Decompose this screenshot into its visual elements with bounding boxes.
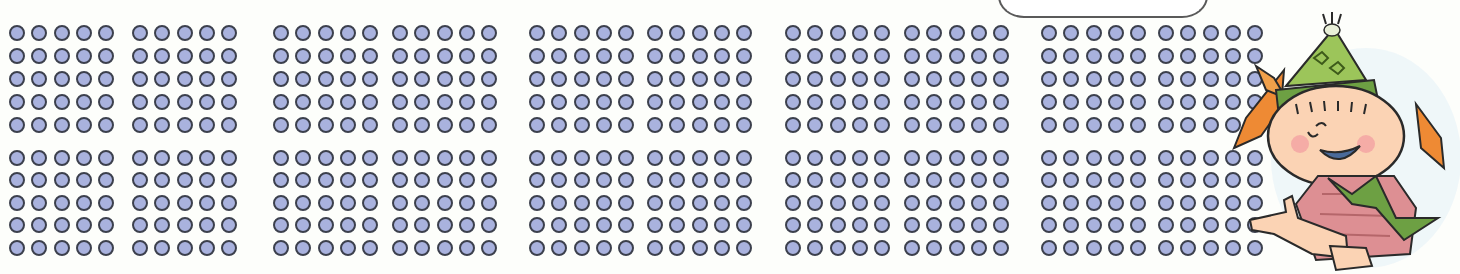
dot [647, 195, 663, 211]
dot [1130, 25, 1146, 41]
dot [340, 94, 356, 110]
dot [551, 48, 567, 64]
dot [692, 172, 708, 188]
dot [98, 94, 114, 110]
dot [904, 217, 920, 233]
dot [1158, 172, 1174, 188]
dot [154, 117, 170, 133]
dot [295, 117, 311, 133]
dot [177, 195, 193, 211]
dot [481, 48, 497, 64]
dot [714, 25, 730, 41]
dot [993, 117, 1009, 133]
dot [362, 48, 378, 64]
dot [177, 25, 193, 41]
dot [437, 217, 453, 233]
dot [340, 25, 356, 41]
dot [459, 71, 475, 87]
dot [1086, 71, 1102, 87]
dot [785, 71, 801, 87]
dot [785, 25, 801, 41]
dot [1158, 25, 1174, 41]
dot [31, 240, 47, 256]
dot [273, 48, 289, 64]
dot [273, 25, 289, 41]
dot [971, 71, 987, 87]
dot [785, 150, 801, 166]
dot [785, 195, 801, 211]
dot [459, 240, 475, 256]
dot [807, 117, 823, 133]
dot [949, 172, 965, 188]
dot [949, 240, 965, 256]
dot [31, 172, 47, 188]
dot [177, 117, 193, 133]
dot [273, 172, 289, 188]
dot [318, 172, 334, 188]
dot [830, 172, 846, 188]
dot [852, 71, 868, 87]
dot [852, 48, 868, 64]
dot [1130, 172, 1146, 188]
dot [132, 48, 148, 64]
dot [736, 94, 752, 110]
dot [1041, 71, 1057, 87]
dot [736, 48, 752, 64]
dot [1063, 71, 1079, 87]
dot [1086, 217, 1102, 233]
dot [1203, 71, 1219, 87]
dot [221, 240, 237, 256]
dot [98, 195, 114, 211]
dot [618, 94, 634, 110]
dot [596, 25, 612, 41]
dot [551, 217, 567, 233]
dot [1158, 217, 1174, 233]
dot [437, 240, 453, 256]
dot [1041, 240, 1057, 256]
dot [647, 150, 663, 166]
dot [904, 150, 920, 166]
dot [414, 117, 430, 133]
dot [785, 240, 801, 256]
dot [1086, 48, 1102, 64]
dot [177, 240, 193, 256]
dot [1063, 150, 1079, 166]
dot [318, 150, 334, 166]
dot [154, 48, 170, 64]
dot [295, 240, 311, 256]
dot [54, 195, 70, 211]
dot [459, 172, 475, 188]
dot [437, 25, 453, 41]
dot [852, 25, 868, 41]
dot [31, 150, 47, 166]
dot [1203, 48, 1219, 64]
dot [596, 172, 612, 188]
dot [31, 117, 47, 133]
dot [1158, 240, 1174, 256]
dot [807, 25, 823, 41]
dot [295, 172, 311, 188]
dot [362, 195, 378, 211]
dot [1158, 117, 1174, 133]
dot [154, 94, 170, 110]
dot [874, 240, 890, 256]
dot [1108, 94, 1124, 110]
dot [830, 48, 846, 64]
dot [993, 217, 1009, 233]
dot [926, 195, 942, 211]
dot [221, 172, 237, 188]
dot [1203, 94, 1219, 110]
dot [9, 217, 25, 233]
dot [529, 172, 545, 188]
dot [830, 25, 846, 41]
dot [807, 195, 823, 211]
dot [926, 217, 942, 233]
dot [807, 217, 823, 233]
dot [529, 117, 545, 133]
dot [318, 25, 334, 41]
dot [414, 150, 430, 166]
dot [647, 240, 663, 256]
dot [1203, 217, 1219, 233]
dot [1158, 150, 1174, 166]
dot [1086, 25, 1102, 41]
